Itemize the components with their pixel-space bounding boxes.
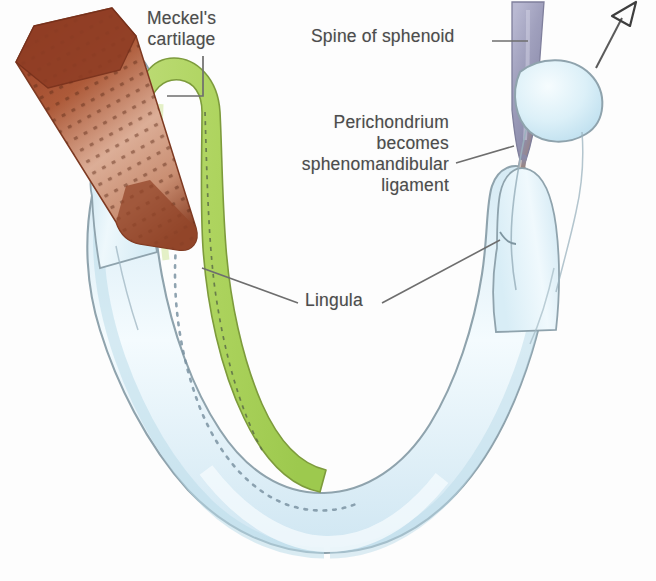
right-condyle [515, 60, 602, 141]
label-spine-of-sphenoid: Spine of sphenoid [311, 26, 455, 47]
anatomical-figure: Meckel's cartilage Spine of sphenoid Per… [0, 0, 656, 581]
arrow-shaft [596, 18, 622, 68]
label-meckels-cartilage: Meckel's cartilage [147, 8, 216, 50]
right-ramus-plate [493, 168, 559, 332]
perichondrium-leader [456, 146, 514, 163]
label-perichondrium-becomes-sphenomandibular-ligament: Perichondrium becomes sphenomandibular l… [281, 112, 449, 196]
arrow-head [612, 2, 636, 26]
right-ramus [493, 60, 602, 344]
label-lingula: Lingula [305, 290, 363, 311]
orientation-arrow [596, 2, 636, 68]
right-ramus-posterior-edge [556, 132, 583, 292]
